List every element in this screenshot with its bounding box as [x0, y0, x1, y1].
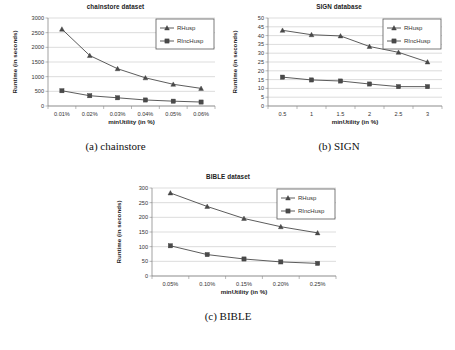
x-axis-label: minUtility (in %)	[332, 118, 379, 125]
chart-title: BIBLE dataset	[112, 172, 344, 182]
y-tick-label: 2000	[32, 44, 44, 50]
data-point-rinchusp	[143, 98, 147, 102]
chart-title: SIGN database	[228, 2, 450, 12]
y-tick-label: 250	[139, 200, 148, 206]
data-point-rhusp	[115, 66, 120, 70]
y-tick-label: 100	[139, 244, 148, 250]
y-tick-label: 0	[261, 103, 264, 109]
chart-title: chainstore dataset	[8, 2, 223, 12]
panel-caption: (b) SIGN	[228, 140, 450, 152]
chart-panel-bible: BIBLE dataset 0501001502002503000.05%0.1…	[112, 172, 344, 344]
data-point-rinchusp	[309, 78, 313, 82]
data-point-rinchusp	[168, 244, 172, 248]
x-tick-label: 1.5	[337, 111, 345, 117]
legend-label-rhusp: RHusp	[404, 25, 423, 31]
y-tick-label: 200	[139, 214, 148, 220]
x-tick-label: 0.02%	[82, 111, 98, 117]
legend-square-marker-icon	[165, 39, 169, 43]
x-tick-label: 0.25%	[310, 281, 326, 287]
y-tick-label: 20	[258, 68, 264, 74]
legend-box	[277, 189, 335, 219]
x-tick-label: 0.06%	[193, 111, 209, 117]
y-tick-label: 10	[258, 85, 264, 91]
x-tick-label: 0.05%	[162, 281, 178, 287]
data-point-rinchusp	[60, 89, 64, 93]
y-tick-label: 500	[35, 88, 44, 94]
y-tick-label: 35	[258, 41, 264, 47]
x-tick-label: 0.10%	[199, 281, 215, 287]
panel-caption: (c) BIBLE	[112, 310, 344, 322]
plot-area: 0501001502002503000.05%0.10%0.15%0.20%0.…	[112, 182, 344, 310]
y-tick-label: 30	[258, 50, 264, 56]
x-tick-label: 3	[426, 111, 429, 117]
y-tick-label: 50	[258, 15, 264, 21]
y-tick-label: 1500	[32, 59, 44, 65]
data-point-rinchusp	[115, 96, 119, 100]
data-point-rinchusp	[242, 257, 246, 261]
legend-label-rinchusp: RIncHusp	[177, 38, 204, 44]
data-point-rinchusp	[280, 75, 284, 79]
legend-square-marker-icon	[392, 39, 396, 43]
panel-caption: (a) chainstore	[8, 140, 223, 152]
y-tick-label: 50	[142, 258, 148, 264]
x-tick-label: 0.03%	[110, 111, 126, 117]
y-tick-label: 40	[258, 33, 264, 39]
x-tick-label: 0.5	[279, 111, 287, 117]
y-tick-label: 1000	[32, 74, 44, 80]
x-tick-label: 2	[368, 111, 371, 117]
y-axis-label: Runtime (in seconds)	[11, 31, 18, 94]
data-point-rinchusp	[316, 261, 320, 265]
plot-area: 0500100015002000250030000.01%0.02%0.03%0…	[8, 12, 223, 140]
y-tick-label: 15	[258, 77, 264, 83]
chart-panel-chainstore: chainstore dataset 050010001500200025003…	[8, 2, 223, 170]
x-tick-label: 0.05%	[165, 111, 181, 117]
chart-panel-sign: SIGN database 051015202530354045500.511.…	[228, 2, 450, 170]
x-tick-label: 2.5	[395, 111, 403, 117]
legend-label-rhusp: RHusp	[298, 195, 317, 201]
x-tick-label: 0.15%	[236, 281, 252, 287]
x-tick-label: 0.01%	[54, 111, 70, 117]
legend-square-marker-icon	[286, 209, 290, 213]
y-axis-label: Runtime (in seconds)	[115, 201, 122, 264]
y-tick-label: 3000	[32, 15, 44, 21]
legend-box	[383, 19, 441, 49]
data-point-rinchusp	[199, 100, 203, 104]
x-axis-label: minUtility (in %)	[108, 118, 155, 125]
figure-container: chainstore dataset 050010001500200025003…	[0, 0, 455, 350]
data-point-rinchusp	[205, 252, 209, 256]
legend-label-rinchusp: RIncHusp	[298, 208, 325, 214]
y-tick-label: 5	[261, 94, 264, 100]
data-point-rinchusp	[279, 260, 283, 264]
legend-box	[156, 19, 214, 49]
y-tick-label: 0	[41, 103, 44, 109]
data-point-rhusp	[60, 27, 65, 31]
data-point-rinchusp	[367, 82, 371, 86]
y-tick-label: 300	[139, 185, 148, 191]
y-axis-label: Runtime (in seconds)	[231, 31, 238, 94]
legend-label-rhusp: RHusp	[177, 25, 196, 31]
y-tick-label: 45	[258, 24, 264, 30]
y-tick-label: 25	[258, 59, 264, 65]
data-point-rinchusp	[171, 99, 175, 103]
x-tick-label: 0.20%	[273, 281, 289, 287]
data-point-rinchusp	[396, 85, 400, 89]
x-axis-label: minUtility (in %)	[221, 288, 268, 295]
y-tick-label: 150	[139, 229, 148, 235]
data-point-rinchusp	[88, 94, 92, 98]
x-tick-label: 1	[310, 111, 313, 117]
data-point-rhusp	[168, 191, 173, 195]
plot-area: 051015202530354045500.511.522.53minUtili…	[228, 12, 450, 140]
series-line-rinchusp	[283, 77, 428, 87]
x-tick-label: 0.04%	[137, 111, 153, 117]
data-point-rinchusp	[338, 79, 342, 83]
y-tick-label: 2500	[32, 30, 44, 36]
legend-label-rinchusp: RIncHusp	[404, 38, 431, 44]
y-tick-label: 0	[145, 273, 148, 279]
series-line-rinchusp	[62, 91, 201, 102]
data-point-rinchusp	[425, 85, 429, 89]
